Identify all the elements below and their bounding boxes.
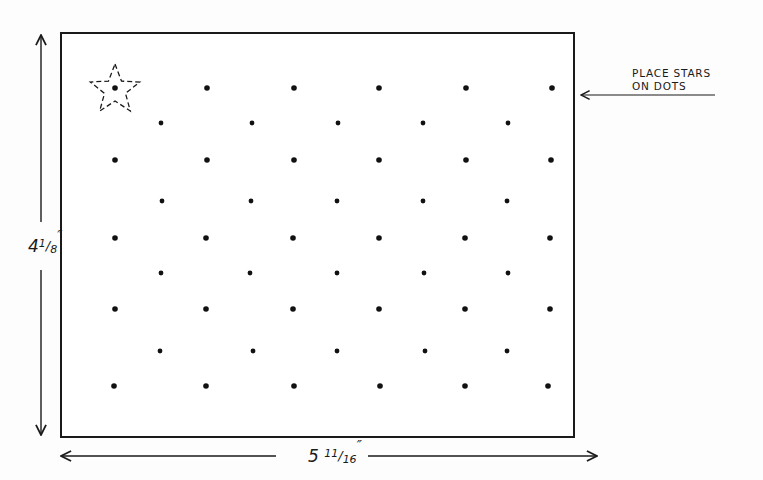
dot: [203, 383, 209, 389]
dot: [463, 157, 469, 163]
height-label: 41/8″: [28, 227, 63, 256]
dot: [290, 235, 296, 241]
callout-line-1: PLACE STARS: [632, 67, 711, 79]
dot: [251, 349, 256, 354]
dot: [159, 271, 164, 276]
dot: [335, 271, 340, 276]
dot: [463, 85, 469, 91]
dot: [335, 349, 340, 354]
dot: [505, 199, 510, 204]
callout: PLACE STARS ON DOTS: [581, 67, 715, 95]
callout-line-2: ON DOTS: [632, 80, 687, 92]
dot: [505, 349, 510, 354]
dot: [547, 306, 553, 312]
dot: [159, 121, 164, 126]
dot: [422, 271, 427, 276]
dot: [376, 306, 382, 312]
dot: [291, 85, 297, 91]
dot: [462, 306, 468, 312]
board-outline: [61, 33, 574, 437]
dot: [158, 349, 163, 354]
dot: [111, 383, 117, 389]
height-dimension: 41/8″: [28, 35, 63, 435]
dot: [160, 199, 165, 204]
dot: [376, 235, 382, 241]
dot: [336, 121, 341, 126]
dot: [506, 121, 511, 126]
dot: [203, 235, 209, 241]
dot: [545, 383, 551, 389]
dot-template-drawing: 41/8″ 5 11/16″ PLACE STARS ON DOTS: [0, 0, 763, 480]
dot: [112, 85, 118, 91]
dot: [112, 157, 118, 163]
dot: [506, 271, 511, 276]
dot: [335, 199, 340, 204]
width-dimension: 5 11/16″: [61, 437, 597, 466]
dot: [376, 85, 382, 91]
dot: [249, 199, 254, 204]
dot: [421, 199, 426, 204]
dot: [290, 306, 296, 312]
dot: [548, 157, 554, 163]
dot: [376, 157, 382, 163]
dot: [421, 121, 426, 126]
dot: [291, 157, 297, 163]
dot: [549, 85, 555, 91]
dot: [547, 235, 553, 241]
dot: [204, 85, 210, 91]
dot: [462, 383, 468, 389]
dot: [203, 306, 209, 312]
dot: [204, 157, 210, 163]
dot: [250, 121, 255, 126]
dot: [377, 383, 383, 389]
dot: [462, 235, 468, 241]
dot: [291, 383, 297, 389]
dot: [112, 235, 118, 241]
dot: [112, 306, 118, 312]
width-label: 5 11/16″: [308, 437, 363, 466]
dot: [423, 349, 428, 354]
dot: [248, 271, 253, 276]
